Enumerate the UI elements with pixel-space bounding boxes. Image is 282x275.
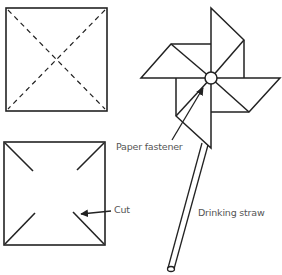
label-paper-fastener: Paper fastener <box>116 141 183 152</box>
cut-line-top-right <box>77 143 104 170</box>
pinwheel-blade-right <box>211 78 280 112</box>
fold-square <box>6 8 107 111</box>
pinwheel-blade-top <box>211 8 244 78</box>
cut-line-bottom-right <box>73 212 104 244</box>
cut-line-bottom-left <box>5 213 35 244</box>
cut-arrow <box>81 211 111 214</box>
cut-line-top-left <box>5 143 33 171</box>
pinwheel-blade-bottom <box>176 78 211 148</box>
paper-fastener <box>205 72 217 84</box>
cut-square <box>4 142 105 245</box>
label-cut: Cut <box>114 204 130 215</box>
diagram-canvas <box>0 0 282 275</box>
label-drinking-straw: Drinking straw <box>198 207 264 218</box>
